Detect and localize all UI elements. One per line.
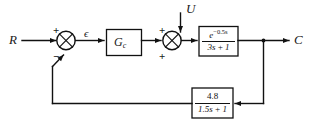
controller-block-label: Gc <box>114 36 126 50</box>
sum1-minus-sign: − <box>53 51 59 62</box>
label-error-signal: ϵ <box>84 28 88 39</box>
label-reference-input: R <box>9 33 17 46</box>
feedback-denominator: 1.5s + 1 <box>196 104 229 114</box>
label-controlled-output: C <box>294 33 303 46</box>
feedback-transfer-function: 4.8 1.5s + 1 <box>195 91 230 115</box>
sum1-plus-sign: + <box>53 25 59 36</box>
diagram-canvas <box>0 0 312 127</box>
sum2-plus-sign-bottom: + <box>159 51 165 62</box>
feedback-numerator: 4.8 <box>205 92 220 102</box>
sum2-plus-sign-top: + <box>159 25 165 36</box>
controller-label-subscript: c <box>123 41 127 50</box>
process-numerator: e−0.5s <box>207 31 229 41</box>
process-transfer-function: e−0.5s 3s + 1 <box>202 29 235 54</box>
label-disturbance-input: U <box>186 2 195 15</box>
controller-label-main: G <box>114 35 123 49</box>
block-diagram-figure: R + − ϵ Gc U + + e−0.5s 3s + 1 4.8 1.5s … <box>0 0 312 127</box>
process-numerator-exponent: −0.5s <box>213 28 227 35</box>
process-denominator: 3s + 1 <box>205 42 231 52</box>
